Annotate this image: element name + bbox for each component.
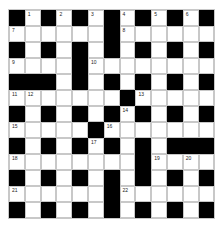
answer-cell[interactable]: [151, 106, 167, 122]
answer-cell[interactable]: [56, 58, 72, 74]
answer-cell[interactable]: 9: [9, 58, 25, 74]
answer-cell[interactable]: [199, 122, 215, 138]
answer-cell[interactable]: [25, 58, 41, 74]
answer-cell[interactable]: [25, 138, 41, 154]
answer-cell[interactable]: [88, 186, 104, 202]
answer-cell[interactable]: [135, 58, 151, 74]
answer-cell[interactable]: [56, 170, 72, 186]
answer-cell[interactable]: [135, 186, 151, 202]
answer-cell[interactable]: [88, 170, 104, 186]
answer-cell[interactable]: [167, 26, 183, 42]
answer-cell[interactable]: [104, 58, 120, 74]
answer-cell[interactable]: 14: [120, 106, 136, 122]
answer-cell[interactable]: [183, 202, 199, 218]
answer-cell[interactable]: 6: [183, 10, 199, 26]
answer-cell[interactable]: [41, 58, 57, 74]
answer-cell[interactable]: [25, 202, 41, 218]
answer-cell[interactable]: [72, 90, 88, 106]
answer-cell[interactable]: [56, 154, 72, 170]
answer-cell[interactable]: [88, 202, 104, 218]
answer-cell[interactable]: [88, 26, 104, 42]
answer-cell[interactable]: [199, 58, 215, 74]
answer-cell[interactable]: [151, 186, 167, 202]
answer-cell[interactable]: [199, 26, 215, 42]
answer-cell[interactable]: [167, 186, 183, 202]
answer-cell[interactable]: [25, 106, 41, 122]
answer-cell[interactable]: 2: [56, 10, 72, 26]
answer-cell[interactable]: [72, 154, 88, 170]
answer-cell[interactable]: [183, 58, 199, 74]
answer-cell[interactable]: [56, 122, 72, 138]
answer-cell[interactable]: [25, 154, 41, 170]
answer-cell[interactable]: [25, 26, 41, 42]
answer-cell[interactable]: 4: [120, 10, 136, 26]
answer-cell[interactable]: [199, 154, 215, 170]
answer-cell[interactable]: 8: [120, 26, 136, 42]
answer-cell[interactable]: [72, 122, 88, 138]
answer-cell[interactable]: 20: [183, 154, 199, 170]
answer-cell[interactable]: [183, 122, 199, 138]
answer-cell[interactable]: [56, 74, 72, 90]
answer-cell[interactable]: [183, 186, 199, 202]
answer-cell[interactable]: 21: [9, 186, 25, 202]
answer-cell[interactable]: 7: [9, 26, 25, 42]
answer-cell[interactable]: 5: [151, 10, 167, 26]
answer-cell[interactable]: [88, 106, 104, 122]
answer-cell[interactable]: 15: [9, 122, 25, 138]
answer-cell[interactable]: [120, 42, 136, 58]
answer-cell[interactable]: [183, 90, 199, 106]
answer-cell[interactable]: [151, 202, 167, 218]
answer-cell[interactable]: [41, 154, 57, 170]
answer-cell[interactable]: 17: [88, 138, 104, 154]
answer-cell[interactable]: [183, 106, 199, 122]
answer-cell[interactable]: [151, 26, 167, 42]
answer-cell[interactable]: [104, 154, 120, 170]
answer-cell[interactable]: [151, 138, 167, 154]
answer-cell[interactable]: [120, 58, 136, 74]
answer-cell[interactable]: [56, 202, 72, 218]
answer-cell[interactable]: [25, 122, 41, 138]
answer-cell[interactable]: [72, 26, 88, 42]
answer-cell[interactable]: [120, 122, 136, 138]
answer-cell[interactable]: [25, 170, 41, 186]
answer-cell[interactable]: [151, 122, 167, 138]
answer-cell[interactable]: [56, 90, 72, 106]
answer-cell[interactable]: [88, 42, 104, 58]
answer-cell[interactable]: [167, 58, 183, 74]
answer-cell[interactable]: [56, 186, 72, 202]
answer-cell[interactable]: [88, 154, 104, 170]
answer-cell[interactable]: [151, 74, 167, 90]
answer-cell[interactable]: [56, 138, 72, 154]
answer-cell[interactable]: [151, 170, 167, 186]
answer-cell[interactable]: [25, 42, 41, 58]
answer-cell[interactable]: [88, 74, 104, 90]
answer-cell[interactable]: [135, 122, 151, 138]
answer-cell[interactable]: [183, 42, 199, 58]
answer-cell[interactable]: 12: [25, 90, 41, 106]
answer-cell[interactable]: [135, 26, 151, 42]
answer-cell[interactable]: [120, 138, 136, 154]
answer-cell[interactable]: [72, 186, 88, 202]
answer-cell[interactable]: [167, 122, 183, 138]
answer-cell[interactable]: [104, 90, 120, 106]
answer-cell[interactable]: [120, 74, 136, 90]
answer-cell[interactable]: [88, 90, 104, 106]
answer-cell[interactable]: [120, 170, 136, 186]
answer-cell[interactable]: [25, 186, 41, 202]
answer-cell[interactable]: 18: [9, 154, 25, 170]
answer-cell[interactable]: [183, 26, 199, 42]
answer-cell[interactable]: 3: [88, 10, 104, 26]
answer-cell[interactable]: [41, 122, 57, 138]
answer-cell[interactable]: 10: [88, 58, 104, 74]
answer-cell[interactable]: [151, 90, 167, 106]
answer-cell[interactable]: [41, 90, 57, 106]
answer-cell[interactable]: [56, 26, 72, 42]
answer-cell[interactable]: [167, 90, 183, 106]
answer-cell[interactable]: [151, 42, 167, 58]
answer-cell[interactable]: [41, 26, 57, 42]
answer-cell[interactable]: [41, 186, 57, 202]
answer-cell[interactable]: [56, 42, 72, 58]
answer-cell[interactable]: [183, 74, 199, 90]
answer-cell[interactable]: [120, 154, 136, 170]
answer-cell[interactable]: 19: [151, 154, 167, 170]
